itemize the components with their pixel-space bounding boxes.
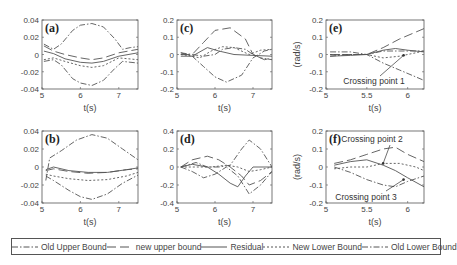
y-tick-label: -0.1 [309, 181, 323, 190]
y-tick-label: 0.02 [23, 145, 39, 154]
panel-label: (b) [45, 132, 60, 146]
x-tick-label: 5.5 [361, 205, 373, 214]
y-tick-label: 0.2 [163, 16, 175, 25]
y-tick-label: -0.2 [160, 181, 174, 190]
y-tick-label: -0.2 [160, 85, 174, 94]
x-axis-label: t(s) [369, 103, 382, 113]
figure-panels: 0.040.020-0.02-0.04567t(s)(a)0.040.020-0… [0, 0, 451, 240]
legend-item-residual: Residual [201, 242, 263, 252]
y-tick-label: -0.1 [160, 68, 174, 77]
x-tick-label: 5 [175, 205, 180, 214]
legend-label: Old Upper Bound [41, 242, 107, 252]
chart-panel-d: 0.40.20-0.2-0.4567t(s)(d) [160, 127, 272, 227]
chart-panel-c: 0.20.10-0.1-0.2567t(s)(c) [160, 16, 272, 113]
y-tick-label: 0 [35, 51, 40, 60]
annotation-arrow [383, 145, 390, 163]
legend-item-new-upper-bound: new upper bound [107, 242, 202, 252]
series-line [44, 60, 138, 86]
y-tick-label: -0.2 [309, 85, 323, 94]
x-axis-label: t(s) [84, 217, 97, 227]
legend-line-icon [12, 244, 38, 250]
x-tick-label: 5 [324, 91, 329, 100]
y-tick-label: 0.2 [312, 127, 324, 136]
legend-item-old-upper-bound: Old Upper Bound [12, 242, 107, 252]
annotation-text: Crossing point 1 [343, 76, 405, 86]
legend: Old Upper Bound new upper bound Residual… [11, 238, 441, 255]
panel-label: (e) [329, 21, 342, 35]
legend-label: Residual [230, 242, 263, 252]
x-tick-label: 6 [213, 205, 218, 214]
legend-line-icon [362, 244, 388, 250]
x-tick-label: 6 [78, 205, 83, 214]
panel-label: (a) [45, 21, 59, 35]
x-tick-label: 7 [251, 91, 256, 100]
series-line [181, 164, 272, 187]
x-tick-label: 5 [40, 205, 45, 214]
series-line [46, 175, 138, 199]
x-tick-label: 7 [117, 205, 122, 214]
y-tick-label: 0 [170, 163, 175, 172]
x-tick-label: 6 [78, 91, 83, 100]
y-axis-label: (rad/s) [292, 41, 302, 67]
y-tick-label: -0.4 [160, 199, 174, 208]
chart-panel-a: 0.040.020-0.02-0.04567t(s)(a) [21, 16, 138, 113]
x-axis-label: t(s) [369, 217, 382, 227]
y-tick-label: 0 [170, 51, 175, 60]
y-tick-label: 0.04 [23, 127, 39, 136]
y-tick-label: 0 [319, 163, 324, 172]
annotation-arrow [386, 180, 404, 191]
y-tick-label: 0.2 [163, 145, 175, 154]
annotation-text: Crossing point 2 [341, 134, 403, 144]
x-tick-label: 5 [40, 91, 45, 100]
series-line [181, 49, 272, 82]
x-tick-label: 5 [175, 91, 180, 100]
x-axis-label: t(s) [84, 103, 97, 113]
x-tick-label: 5.5 [361, 91, 373, 100]
series-line [46, 172, 138, 180]
y-tick-label: 0.2 [312, 16, 324, 25]
y-tick-label: 0.1 [312, 33, 324, 42]
x-tick-label: 6 [213, 91, 218, 100]
y-tick-label: -0.04 [21, 85, 40, 94]
x-axis-label: t(s) [218, 217, 231, 227]
y-tick-label: 0 [319, 51, 324, 60]
legend-label: new upper bound [136, 242, 202, 252]
x-tick-label: 7 [117, 91, 122, 100]
x-axis-label: t(s) [218, 103, 231, 113]
y-tick-label: -0.02 [21, 181, 40, 190]
panel-label: (d) [180, 132, 195, 146]
legend-item-new-lower-bound: New Lower Bound [263, 242, 361, 252]
x-tick-label: 7 [251, 205, 256, 214]
y-tick-label: 0.04 [23, 16, 39, 25]
panel-label: (c) [180, 21, 193, 35]
series-line [334, 167, 424, 187]
series-line [44, 46, 138, 60]
y-tick-label: -0.1 [309, 68, 323, 77]
series-line [334, 163, 424, 170]
y-tick-label: 0 [35, 163, 40, 172]
chart-panel-f: 0.20.10-0.1-0.255.56t(s)(rad/s)(f)Crossi… [292, 127, 424, 227]
annotation-arrow [380, 55, 404, 76]
y-tick-label: 0.4 [163, 127, 175, 136]
x-tick-label: 6 [405, 205, 410, 214]
legend-label: New Lower Bound [292, 242, 361, 252]
y-tick-label: -0.02 [21, 68, 40, 77]
y-tick-label: 0.02 [23, 33, 39, 42]
y-tick-label: 0.1 [163, 33, 175, 42]
series-line [334, 147, 424, 163]
y-axis-label: (rad/s) [292, 154, 302, 180]
annotation-text: Crossing point 3 [335, 192, 397, 202]
y-tick-label: -0.2 [309, 199, 323, 208]
x-tick-label: 5 [324, 205, 329, 214]
chart-panel-e: 0.20.10-0.1-0.255.56t(s)(rad/s)(e)Crossi… [292, 16, 424, 113]
legend-label: Old Lower Bound [391, 242, 457, 252]
legend-item-old-lower-bound: Old Lower Bound [362, 242, 457, 252]
x-tick-label: 6 [405, 91, 410, 100]
legend-line-icon [107, 244, 133, 250]
y-tick-label: 0.1 [312, 145, 324, 154]
legend-line-icon [263, 244, 289, 250]
legend-line-icon [201, 244, 227, 250]
y-tick-label: -0.04 [21, 199, 40, 208]
panel-label: (f) [329, 132, 341, 146]
chart-panel-b: 0.040.020-0.02-0.04567t(s)(b) [21, 127, 138, 227]
